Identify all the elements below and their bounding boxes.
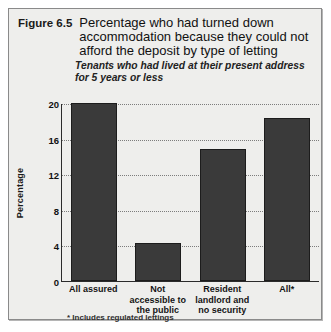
x-tick-label: Resident landlord and no security	[190, 284, 255, 316]
y-tick-label: 0	[54, 277, 59, 288]
bar[interactable]	[264, 118, 310, 281]
bar[interactable]	[135, 243, 181, 281]
figure-number: Figure 6.5	[18, 16, 72, 31]
bar-slot	[255, 104, 319, 281]
title-row: Figure 6.5 Percentage who had turned dow…	[18, 16, 312, 57]
chart-plot-wrapper: Percentage 0 4 8 12 16 20	[9, 104, 323, 321]
bar-slot	[126, 104, 190, 281]
x-tick-label: Not accessible to the public	[126, 284, 191, 316]
y-tick-label: 20	[48, 99, 59, 110]
figure-panel: Figure 6.5 Percentage who had turned dow…	[8, 8, 322, 320]
x-axis-tick-labels: All assured Not accessible to the public…	[61, 284, 319, 316]
page-title: Percentage who had turned down accommoda…	[79, 16, 312, 57]
y-axis-tick-labels: 0 4 8 12 16 20	[33, 104, 59, 282]
bar-slot	[191, 104, 255, 281]
plot-area	[61, 104, 319, 282]
x-tick-label: All*	[255, 284, 320, 316]
figure-header: Figure 6.5 Percentage who had turned dow…	[9, 9, 321, 83]
bar[interactable]	[200, 149, 246, 281]
y-tick-label: 12	[48, 170, 59, 181]
x-tick-label: All assured	[61, 284, 126, 316]
bar-series	[62, 104, 319, 281]
y-tick-label: 4	[54, 241, 59, 252]
y-tick-label: 16	[48, 134, 59, 145]
bar[interactable]	[71, 103, 117, 281]
chart-footnote: * Includes regulated lettings	[67, 313, 174, 322]
y-axis-title: Percentage	[15, 163, 25, 223]
figure-subtitle: Tenants who had lived at their present a…	[75, 60, 312, 83]
y-tick-label: 8	[54, 205, 59, 216]
bar-slot	[62, 104, 126, 281]
